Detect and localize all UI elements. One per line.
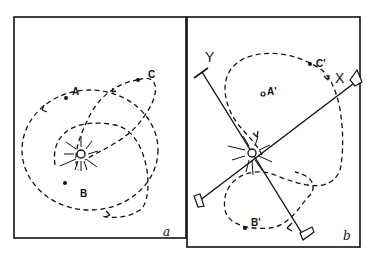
point-c bbox=[136, 78, 140, 82]
panel-a-label: a bbox=[163, 225, 170, 239]
point-a bbox=[64, 96, 68, 100]
y-axis-label: Y bbox=[205, 49, 215, 65]
sun-icon bbox=[228, 136, 272, 175]
orbit-b-path bbox=[54, 123, 148, 217]
sun-icon bbox=[60, 136, 98, 171]
panel-b: X Y A' bbox=[187, 17, 362, 247]
point-a-prime-label: A' bbox=[267, 86, 277, 97]
x-axis-label: X bbox=[335, 70, 345, 86]
point-a-label: A bbox=[72, 86, 79, 97]
point-c-label: C bbox=[148, 69, 155, 80]
panel-b-label: b bbox=[343, 229, 351, 243]
y-axis-cap bbox=[194, 68, 208, 78]
x-axis-neg-arrow-icon bbox=[194, 194, 204, 207]
x-axis-line bbox=[199, 84, 353, 201]
point-b-label: B bbox=[80, 188, 87, 199]
point-b-prime-label: B' bbox=[251, 217, 261, 228]
y-axis-neg-arrow-icon bbox=[300, 227, 314, 240]
point-c-prime-label: C' bbox=[316, 58, 326, 69]
orbit-transformed-path bbox=[224, 53, 342, 228]
point-b-prime bbox=[243, 226, 247, 230]
orbit-diagram-figure: A B C a X Y bbox=[0, 0, 371, 259]
arrow-icon bbox=[105, 211, 110, 217]
point-b bbox=[63, 181, 67, 185]
arrow-icon bbox=[253, 131, 258, 137]
point-c-prime bbox=[308, 62, 312, 66]
arrow-icon bbox=[287, 223, 292, 231]
panel-a: A B C a bbox=[14, 17, 186, 239]
panel-a-frame bbox=[14, 17, 186, 238]
point-a-prime bbox=[261, 92, 265, 96]
